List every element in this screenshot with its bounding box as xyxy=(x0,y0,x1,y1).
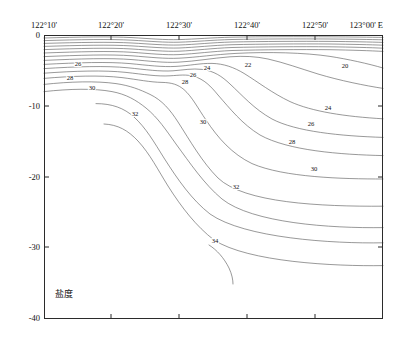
contour-label: 28 xyxy=(67,74,74,81)
contour-plot-svg: 122°10'122°20'122°30'122°40'122°50'123°0… xyxy=(0,0,419,340)
contour-label: 24 xyxy=(325,104,332,111)
y-tick-label: -20 xyxy=(29,172,40,182)
y-tick-label: -40 xyxy=(29,313,40,323)
x-tick-label: 123°00' E xyxy=(350,20,384,30)
contour-label: 34 xyxy=(212,237,219,244)
x-axis-tick-labels: 122°10'122°20'122°30'122°40'122°50'123°0… xyxy=(31,20,383,30)
y-tick-label: -10 xyxy=(29,101,40,111)
contour-level-labels: 2626282830302424262628282222202032323030… xyxy=(67,60,349,244)
contour-label: 32 xyxy=(132,110,139,117)
contour-label: 26 xyxy=(190,71,197,78)
x-tick-label: 122°20' xyxy=(98,20,125,30)
x-tick-label: 122°10' xyxy=(31,20,58,30)
figure-caption: 盐度 xyxy=(55,288,73,299)
contour-label: 22 xyxy=(245,61,252,68)
contour-label: 28 xyxy=(289,138,296,145)
salinity-contour-figure: 122°10'122°20'122°30'122°40'122°50'123°0… xyxy=(0,0,419,340)
x-tick-label: 122°30' xyxy=(166,20,193,30)
contour-label: 20 xyxy=(342,62,349,69)
contour-label: 32 xyxy=(233,183,240,190)
x-tick-label: 122°40' xyxy=(234,20,261,30)
x-tick-label: 122°50' xyxy=(302,20,329,30)
y-axis-tick-labels: 0-10-20-30-40 xyxy=(29,30,40,323)
contour-label: 28 xyxy=(182,78,189,85)
contour-label: 24 xyxy=(204,64,211,71)
y-tick-label: 0 xyxy=(36,30,40,40)
y-tick-label: -30 xyxy=(29,242,40,252)
contour-label: 30 xyxy=(89,84,96,91)
contour-label: 30 xyxy=(311,165,318,172)
contour-lines xyxy=(44,37,383,284)
contour-label: 30 xyxy=(200,118,207,125)
contour-label: 26 xyxy=(308,120,315,127)
contour-label: 26 xyxy=(75,60,82,67)
